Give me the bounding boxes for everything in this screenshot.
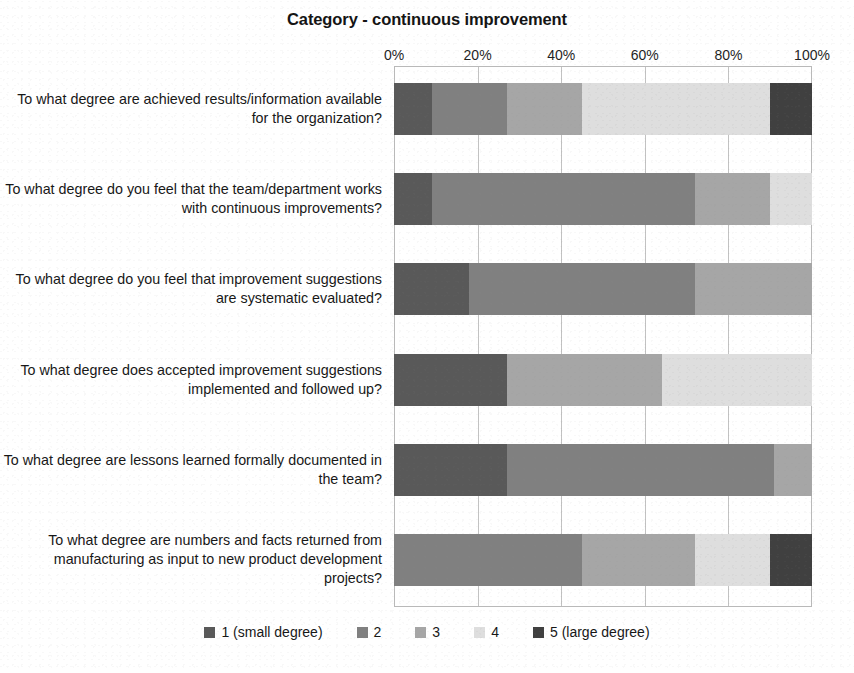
bar-segment[interactable] [770,173,812,225]
legend-item[interactable]: 2 [357,624,382,640]
category-label: To what degree are lessons learned forma… [0,451,382,489]
legend-label: 2 [374,624,382,640]
x-tick-label: 60% [631,47,659,63]
bar-segment[interactable] [394,83,432,135]
legend-swatch-icon [474,627,485,638]
category-label: To what degree do you feel that the team… [0,180,382,218]
legend-item[interactable]: 4 [474,624,499,640]
category-label: To what degree are achieved results/info… [0,90,382,128]
bar-segment[interactable] [695,534,770,586]
bar-segment[interactable] [394,263,469,315]
x-tick-label: 20% [464,47,492,63]
legend-item[interactable]: 3 [415,624,440,640]
bar-segment[interactable] [774,444,812,496]
x-axis-tick-labels: 0%20%40%60%80%100% [394,47,812,65]
x-tick-label: 40% [547,47,575,63]
bar-segment[interactable] [582,534,695,586]
legend-swatch-icon [415,627,426,638]
legend-label: 4 [491,624,499,640]
bar-segment[interactable] [469,263,695,315]
bar-row[interactable] [394,444,812,496]
legend-label: 3 [432,624,440,640]
legend-label: 5 (large degree) [550,624,650,640]
bar-segment[interactable] [695,173,770,225]
chart-container: Category - continuous improvement 0%20%4… [0,0,854,673]
bar-segment[interactable] [432,83,507,135]
x-tick-label: 80% [714,47,742,63]
legend-item[interactable]: 1 (small degree) [204,624,322,640]
bar-segment[interactable] [770,83,812,135]
bar-row[interactable] [394,263,812,315]
x-tick-label: 100% [794,47,830,63]
bar-segment[interactable] [582,83,770,135]
category-label: To what degree does accepted improvement… [0,361,382,399]
chart-legend: 1 (small degree)2345 (large degree) [0,624,854,640]
chart-title: Category - continuous improvement [0,10,854,29]
x-tick-label: 0% [384,47,404,63]
legend-swatch-icon [204,627,215,638]
category-label: To what degree are numbers and facts ret… [0,531,382,588]
bar-segment[interactable] [394,444,507,496]
bar-segment[interactable] [507,83,582,135]
bar-segment[interactable] [394,534,582,586]
bar-segment[interactable] [695,263,812,315]
legend-label: 1 (small degree) [221,624,322,640]
category-axis-labels: To what degree are achieved results/info… [0,66,388,607]
bar-segment[interactable] [662,354,812,406]
bar-row[interactable] [394,534,812,586]
legend-item[interactable]: 5 (large degree) [533,624,650,640]
bar-segment[interactable] [394,354,507,406]
category-label: To what degree do you feel that improvem… [0,270,382,308]
bar-segment[interactable] [770,534,812,586]
bar-row[interactable] [394,354,812,406]
bar-segment[interactable] [507,354,662,406]
legend-swatch-icon [357,627,368,638]
bar-row[interactable] [394,173,812,225]
legend-swatch-icon [533,627,544,638]
bar-segment[interactable] [432,173,695,225]
bar-row[interactable] [394,83,812,135]
bar-series-group [394,66,812,607]
bar-segment[interactable] [507,444,775,496]
bar-segment[interactable] [394,173,432,225]
